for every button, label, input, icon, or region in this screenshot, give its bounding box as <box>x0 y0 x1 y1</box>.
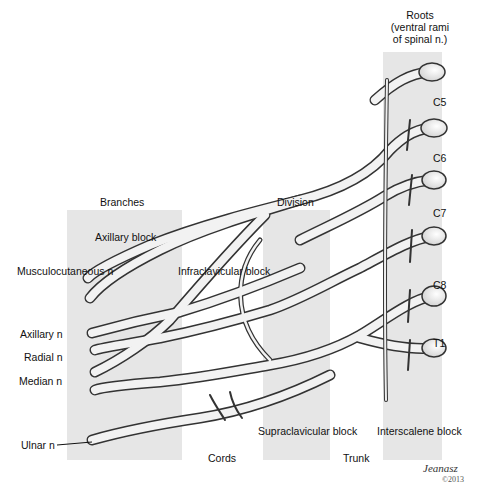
roots-header-line-2: (ventral rami <box>380 21 460 33</box>
root-label-c6: C6 <box>433 152 446 164</box>
radial-nerve-label: Radial n <box>24 351 63 363</box>
roots-header-line-1: Roots <box>380 9 460 21</box>
roots-header: Roots (ventral rami of spinal n.) <box>380 9 460 45</box>
root-label-t1: T1 <box>433 337 445 349</box>
musculocutaneous-nerve-label: Musculocutaneous n <box>17 265 113 277</box>
artist-signature: Jeanasz <box>423 462 458 474</box>
infraclavicular-block-label: Infraclavicular block <box>178 265 270 277</box>
root-label-c7: C7 <box>433 207 446 219</box>
division-header: Division <box>277 196 314 208</box>
axillary-block-label: Axillary block <box>95 231 156 243</box>
root-label-c8: C8 <box>433 279 446 291</box>
branches-header: Branches <box>100 196 144 208</box>
median-nerve-label: Median n <box>19 375 62 387</box>
trunk-label: Trunk <box>343 452 369 464</box>
brachial-plexus-illustration <box>0 0 487 496</box>
copyright-label: ©2013 <box>442 475 464 484</box>
root-label-c5: C5 <box>433 96 446 108</box>
interscalene-block-label: Interscalene block <box>377 425 462 437</box>
cords-label: Cords <box>208 452 236 464</box>
supraclavicular-block-label: Supraclavicular block <box>258 425 357 437</box>
axillary-nerve-label: Axillary n <box>20 328 63 340</box>
ulnar-nerve-label: Ulnar n <box>21 439 55 451</box>
roots-header-line-3: of spinal n.) <box>380 33 460 45</box>
